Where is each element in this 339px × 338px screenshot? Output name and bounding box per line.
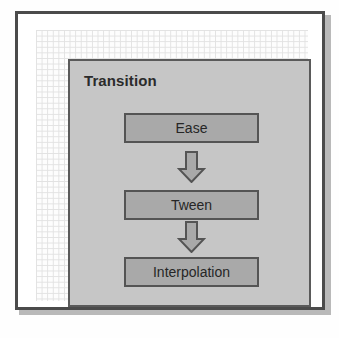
flow-node-label: Interpolation [153, 264, 230, 280]
transition-panel: Transition Ease Tween [68, 59, 311, 307]
outer-frame-border: Transition Ease Tween [15, 11, 325, 310]
down-block-arrow-glyph [177, 221, 206, 253]
flow-node-ease[interactable]: Ease [124, 113, 259, 143]
page-title: Transition [84, 72, 157, 89]
down-block-arrow-icon [177, 221, 206, 253]
flow-node-label: Ease [176, 120, 208, 136]
down-block-arrow-icon [177, 151, 206, 183]
flow-node-tween[interactable]: Tween [124, 190, 259, 220]
scanned-page: Transition Ease Tween [0, 0, 339, 338]
down-block-arrow-glyph [177, 151, 206, 183]
flow-node-interpolation[interactable]: Interpolation [124, 257, 259, 287]
graph-paper-grid: Transition Ease Tween [36, 30, 308, 301]
flow-node-label: Tween [171, 197, 212, 213]
